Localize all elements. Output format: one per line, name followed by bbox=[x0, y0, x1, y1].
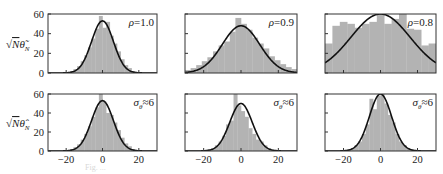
histogram-bar bbox=[245, 117, 249, 151]
histogram-bar bbox=[252, 134, 256, 151]
histogram-bar bbox=[95, 107, 99, 151]
histogram-bar bbox=[92, 39, 96, 73]
y-axis-label-bottom: √Nθ̂N bbox=[6, 117, 30, 132]
histogram-bar bbox=[103, 102, 107, 151]
histogram-bars bbox=[204, 94, 275, 151]
y-tick-label: 60 bbox=[34, 89, 45, 100]
histogram-bar bbox=[392, 19, 400, 73]
histogram-bar bbox=[230, 32, 236, 73]
histogram-bar bbox=[224, 42, 230, 73]
histogram-bar bbox=[377, 96, 381, 151]
histogram-bar bbox=[103, 28, 107, 73]
histogram-bars bbox=[347, 94, 414, 151]
y-tick-label: 0 bbox=[39, 68, 44, 79]
histogram-bar bbox=[247, 30, 253, 73]
x-tick-label: −20 bbox=[58, 154, 74, 165]
histogram-bar bbox=[234, 94, 238, 151]
histogram-bar bbox=[347, 24, 355, 73]
subplot-2: ρ=0.9 bbox=[185, 14, 297, 73]
histogram-bar bbox=[95, 29, 99, 73]
subplot-3: ρ=0.8 bbox=[325, 14, 436, 73]
histogram-bar bbox=[252, 38, 258, 73]
histogram-bar bbox=[362, 24, 370, 73]
histogram-bar bbox=[332, 26, 340, 73]
panel-annotation: ρ=1.0 bbox=[128, 16, 155, 28]
subplot-4: −200200204060σθ≈6 bbox=[34, 89, 158, 166]
histogram-bar bbox=[414, 30, 422, 73]
histogram-bar bbox=[421, 45, 429, 73]
histogram-bar bbox=[388, 115, 392, 151]
histogram-bars bbox=[66, 94, 139, 151]
panel-annotation: σθ≈6 bbox=[134, 96, 155, 111]
subplot-6: −20020σθ≈6 bbox=[325, 94, 436, 165]
figure: √Nθ̃N√Nθ̂N 0204060ρ=1.0ρ=0.9ρ=0.8−200200… bbox=[0, 0, 443, 174]
caption-faint: Fig. ... bbox=[85, 163, 385, 172]
histogram-bar bbox=[241, 111, 245, 151]
y-axis-label-top: √Nθ̃N bbox=[6, 38, 30, 53]
y-tick-label: 40 bbox=[34, 28, 45, 39]
histogram-bar bbox=[99, 16, 103, 73]
histogram-bar bbox=[384, 24, 392, 73]
x-tick-label: 20 bbox=[412, 154, 423, 165]
histogram-bar bbox=[381, 94, 385, 151]
histogram-bar bbox=[248, 128, 252, 151]
y-tick-label: 40 bbox=[34, 108, 45, 119]
histogram-bar bbox=[106, 113, 110, 151]
y-tick-label: 0 bbox=[39, 146, 44, 157]
histogram-bar bbox=[373, 109, 377, 151]
subplot-5: −20020σθ≈6 bbox=[185, 94, 297, 165]
histogram-bar bbox=[399, 14, 407, 73]
histogram-bar bbox=[369, 22, 377, 73]
histogram-bar bbox=[230, 121, 234, 151]
y-tick-label: 60 bbox=[34, 9, 45, 20]
panel-annotation: ρ=0.8 bbox=[407, 16, 434, 28]
subplot-1: 0204060ρ=1.0 bbox=[34, 9, 158, 79]
histogram-bar bbox=[384, 104, 388, 152]
histogram-bar bbox=[366, 124, 370, 151]
histogram-bar bbox=[256, 140, 260, 151]
histogram-bar bbox=[355, 28, 363, 73]
panel-annotation: ρ=0.9 bbox=[268, 16, 295, 28]
panel-annotation: σθ≈6 bbox=[413, 96, 434, 111]
histogram-bar bbox=[340, 22, 348, 73]
panel-annotation: σθ≈6 bbox=[274, 96, 295, 111]
histogram-bar bbox=[241, 24, 247, 73]
histogram-bar bbox=[237, 105, 241, 151]
y-tick-label: 20 bbox=[34, 127, 45, 138]
y-tick-label: 20 bbox=[34, 48, 45, 59]
histogram-bar bbox=[92, 117, 96, 151]
histogram-bar bbox=[377, 14, 385, 73]
